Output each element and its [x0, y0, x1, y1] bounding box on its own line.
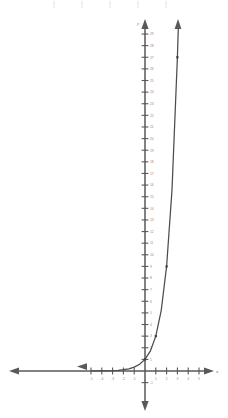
y-tick-label: 10 — [150, 253, 154, 257]
y-axis-label: y — [136, 21, 140, 26]
x-tick-label: 4 — [187, 377, 189, 381]
y-tick-label: 18 — [150, 160, 154, 164]
y-tick-label: 28 — [150, 44, 154, 48]
curve-point-marker — [176, 56, 178, 58]
y-tick-label: 15 — [150, 195, 154, 199]
y-tick-label: 3 — [150, 334, 152, 338]
y-tick-label: 22 — [150, 114, 154, 118]
y-tick-label: 12 — [150, 230, 154, 234]
y-tick-label: 17 — [150, 172, 154, 176]
x-tick-label: 1 — [155, 377, 157, 381]
y-axis-arrow-down — [141, 401, 148, 411]
exponential-graph-figure: 1234567891011121314151617181920212223242… — [0, 0, 228, 418]
x-axis-arrow-left — [9, 367, 19, 374]
exponential-curve — [91, 22, 178, 371]
y-tick-label: 25 — [150, 79, 154, 83]
y-tick-label: -1 — [150, 381, 153, 385]
y-tick-label: 9 — [150, 265, 152, 269]
curve-point-marker — [144, 358, 146, 360]
y-tick-label: 8 — [150, 276, 152, 280]
x-tick-label: -1 — [133, 377, 136, 381]
y-tick-label: 5 — [150, 311, 152, 315]
y-axis-arrow-up — [141, 19, 148, 29]
y-tick-label: 14 — [150, 207, 154, 211]
y-tick-label: 1 — [150, 358, 152, 362]
y-tick-label: 27 — [150, 56, 154, 60]
curve-left-arrow — [77, 363, 87, 370]
y-tick-label: 7 — [150, 288, 152, 292]
y-tick-label: 6 — [150, 300, 152, 304]
x-tick-label: -5 — [90, 377, 93, 381]
y-tick-label: 11 — [150, 241, 154, 245]
y-axis-ticks: 1234567891011121314151617181920212223242… — [142, 32, 154, 385]
y-tick-label: 4 — [150, 323, 152, 327]
top-crop-tick-strip — [54, 1, 166, 8]
y-tick-label: 29 — [150, 32, 154, 36]
y-tick-label: 16 — [150, 183, 154, 187]
y-tick-label: 26 — [150, 67, 154, 71]
x-tick-label: -4 — [100, 377, 103, 381]
x-axis-label: x — [215, 369, 219, 374]
x-tick-label: 5 — [198, 377, 200, 381]
y-tick-label: 24 — [150, 90, 154, 94]
y-axis — [141, 19, 148, 411]
x-tick-label: 2 — [166, 377, 168, 381]
y-tick-label: 13 — [150, 218, 154, 222]
graph-canvas: 1234567891011121314151617181920212223242… — [0, 0, 228, 418]
x-tick-label: -3 — [111, 377, 114, 381]
y-tick-label: 19 — [150, 149, 154, 153]
x-tick-label: 3 — [176, 377, 178, 381]
x-tick-label: -2 — [122, 377, 125, 381]
y-tick-label: 23 — [150, 102, 154, 106]
curve-up-arrow — [175, 19, 182, 29]
y-tick-label: 20 — [150, 137, 154, 141]
x-axis-arrow-right — [204, 367, 214, 374]
curve-point-marker — [166, 265, 168, 267]
curve-point-marker — [155, 335, 157, 337]
y-tick-label: 21 — [150, 125, 154, 129]
